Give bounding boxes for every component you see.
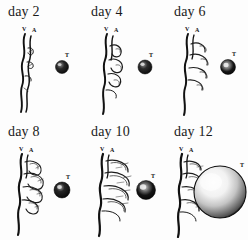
panel-day-4: day 4 V A bbox=[83, 0, 165, 118]
artery-label-day-8: A bbox=[29, 147, 34, 153]
tumor-label-day-4: T bbox=[149, 52, 153, 58]
tumor-group-day-2 bbox=[56, 61, 69, 74]
tumor-group-day-10 bbox=[137, 181, 156, 200]
vessel-group-day-2 bbox=[21, 34, 33, 112]
vein-label-day-12: V bbox=[179, 146, 184, 152]
panel-day-2: day 2 V A bbox=[0, 0, 82, 118]
panel-illustration-day-2: V A T bbox=[0, 22, 82, 118]
panel-label-day-6: day 6 bbox=[174, 4, 206, 20]
panel-label-day-12: day 12 bbox=[174, 124, 213, 140]
angiogenesis-figure: day 2 V A bbox=[0, 0, 248, 240]
panel-day-6: day 6 V A bbox=[166, 0, 248, 118]
tumor-label-day-12: T bbox=[240, 162, 244, 168]
artery-label-day-10: A bbox=[110, 147, 115, 153]
panel-label-day-8: day 8 bbox=[8, 124, 40, 140]
panel-illustration-day-4: V A T bbox=[83, 22, 165, 118]
panel-label-day-4: day 4 bbox=[91, 4, 123, 20]
tumor-label-day-8: T bbox=[66, 174, 70, 180]
panel-illustration-day-10: V A T bbox=[83, 142, 165, 238]
panel-illustration-day-12: V A T bbox=[166, 142, 248, 238]
vein-label-day-4: V bbox=[104, 26, 109, 32]
panel-illustration-day-8: V A T bbox=[0, 142, 82, 238]
vein-label-day-10: V bbox=[100, 146, 105, 152]
vessel-group-day-10 bbox=[99, 154, 131, 236]
artery-label-day-12: A bbox=[189, 147, 194, 153]
tumor-group-day-6 bbox=[221, 60, 236, 75]
panel-day-12: day 12 bbox=[166, 120, 248, 238]
tumor-label-day-2: T bbox=[65, 52, 69, 58]
artery-label-day-2: A bbox=[32, 27, 37, 33]
panel-illustration-day-6: V A T bbox=[166, 22, 248, 118]
tumor-group-day-4 bbox=[138, 60, 152, 74]
artery-label-day-4: A bbox=[114, 27, 119, 33]
vein-label-day-6: V bbox=[185, 26, 190, 32]
tumor-group-day-12 bbox=[194, 166, 246, 218]
panel-label-day-10: day 10 bbox=[91, 124, 130, 140]
panel-day-10: day 10 bbox=[83, 120, 165, 238]
panel-day-8: day 8 V bbox=[0, 120, 82, 238]
vessel-group-day-8 bbox=[18, 154, 43, 235]
vessel-group-day-4 bbox=[103, 34, 122, 114]
vessel-group-day-6 bbox=[184, 34, 208, 115]
tumor-group-day-8 bbox=[54, 182, 70, 198]
vein-label-day-2: V bbox=[22, 26, 27, 32]
tumor-label-day-10: T bbox=[151, 173, 155, 179]
vein-label-day-8: V bbox=[19, 146, 24, 152]
tumor-label-day-6: T bbox=[232, 51, 236, 57]
panel-label-day-2: day 2 bbox=[8, 4, 40, 20]
artery-label-day-6: A bbox=[195, 27, 200, 33]
